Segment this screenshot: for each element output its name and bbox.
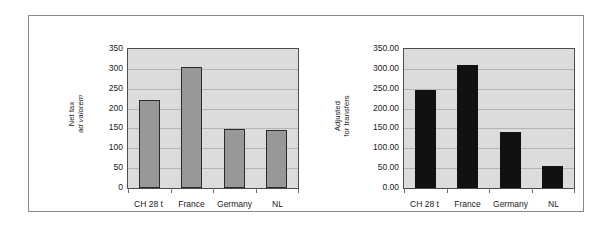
y-axis-tick-label: 200 [109, 103, 123, 112]
x-axis-tick [574, 188, 575, 193]
x-axis-tick [213, 188, 214, 193]
x-axis-category-label: NL [256, 200, 299, 209]
chart-adjusted-for-transfers: Adjusted for transfers 350.00300.00250.0… [317, 16, 579, 211]
x-axis-category-label: Germany [489, 200, 532, 209]
y-axis-tick-label: 200.00 [373, 103, 399, 112]
x-axis-tick [447, 188, 448, 193]
bar-france [181, 67, 202, 188]
x-axis-tick [128, 188, 129, 193]
x-axis-tick [256, 188, 257, 193]
y-axis-tick-label: 100 [109, 143, 123, 152]
y-axis-tick-label: 150.00 [373, 123, 399, 132]
bar-series-left [128, 49, 298, 188]
y-axis-tick-label: 250.00 [373, 83, 399, 92]
plot-area-left [127, 48, 299, 189]
bar-germany [224, 129, 245, 188]
figure-frame: Net tax ad valorem 350300250200150100500… [28, 15, 584, 212]
y-axis-tick-label: 300 [109, 64, 123, 73]
x-axis-category-label: France [170, 200, 213, 209]
y-axis-tick-labels-left: 350300250200150100500 [79, 16, 123, 211]
y-axis-tick-label: 0.00 [382, 183, 399, 192]
x-axis-tick [171, 188, 172, 193]
x-axis-category-labels-right: CH 28 tFranceGermanyNL [403, 200, 575, 209]
x-axis-category-label: NL [532, 200, 575, 209]
y-axis-tick-label: 300.00 [373, 64, 399, 73]
x-axis-category-label: CH 28 t [403, 200, 446, 209]
bar-slot [213, 129, 256, 188]
bar-slot [404, 90, 447, 188]
bar-slot [171, 67, 214, 188]
chart-net-tax-ad-valorem: Net tax ad valorem 350300250200150100500… [35, 16, 307, 211]
y-axis-tick-label: 50 [114, 163, 123, 172]
x-axis-ticks-right [404, 188, 574, 193]
y-axis-tick-label: 50.00 [378, 163, 399, 172]
x-axis-tick [298, 188, 299, 193]
y-axis-tick-label: 150 [109, 123, 123, 132]
y-axis-tick-label: 350.00 [373, 44, 399, 53]
bar-france [457, 65, 478, 189]
x-axis-tick [404, 188, 405, 193]
bar-slot [128, 100, 171, 188]
bar-slot [532, 166, 575, 188]
y-axis-title-right-line1: Adjusted [333, 101, 342, 131]
plot-area-right [403, 48, 575, 189]
x-axis-ticks-left [128, 188, 298, 193]
y-axis-tick-label: 350 [109, 44, 123, 53]
bar-nl [542, 166, 563, 188]
x-axis-category-label: France [446, 200, 489, 209]
y-axis-title-left-line1: Net tax [67, 102, 76, 126]
x-axis-tick [489, 188, 490, 193]
bar-slot [256, 130, 299, 188]
bar-ch-28-t [139, 100, 160, 188]
bar-series-right [404, 49, 574, 188]
y-axis-tick-label: 250 [109, 83, 123, 92]
bar-nl [266, 130, 287, 188]
x-axis-category-labels-left: CH 28 tFranceGermanyNL [127, 200, 299, 209]
bar-ch-28-t [415, 90, 436, 188]
y-axis-tick-label: 0 [118, 183, 123, 192]
x-axis-category-label: CH 28 t [127, 200, 170, 209]
bar-slot [489, 132, 532, 188]
x-axis-tick [532, 188, 533, 193]
x-axis-category-label: Germany [213, 200, 256, 209]
y-axis-tick-labels-right: 350.00300.00250.00200.00150.00100.0050.0… [347, 16, 399, 211]
bar-slot [447, 65, 490, 189]
y-axis-tick-label: 100.00 [373, 143, 399, 152]
bar-germany [500, 132, 521, 188]
